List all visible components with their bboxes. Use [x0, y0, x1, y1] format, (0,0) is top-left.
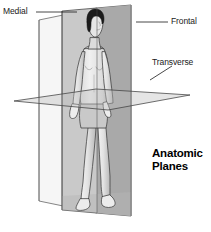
figure-title-line2: Planes — [152, 160, 203, 173]
label-frontal: Frontal — [171, 17, 197, 27]
figure-neck — [88, 38, 101, 49]
leader-line-transverse — [150, 66, 172, 80]
frontal-plane-floor-shade — [62, 192, 131, 216]
anatomic-planes-illustration — [0, 0, 211, 232]
label-transverse: Transverse — [152, 58, 193, 68]
figure-title: Anatomic Planes — [152, 147, 203, 172]
anatomic-planes-figure: Medial Frontal Transverse Anatomic Plane… — [0, 0, 211, 232]
figure-title-line1: Anatomic — [152, 147, 203, 160]
label-medial: Medial — [3, 7, 27, 17]
